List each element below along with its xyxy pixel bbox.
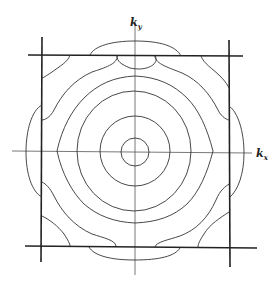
corner-arc-br bbox=[198, 212, 229, 247]
corner-arc-tl bbox=[42, 55, 70, 78]
bulge-bottom bbox=[89, 247, 180, 260]
corner-arc-bl bbox=[42, 216, 70, 246]
kx-axis bbox=[12, 151, 252, 153]
contour-5 bbox=[117, 55, 156, 69]
ky-label: ky bbox=[130, 16, 143, 31]
bulge-right bbox=[229, 106, 244, 197]
bulge-top bbox=[90, 41, 181, 56]
corner-arc-tr bbox=[201, 56, 229, 88]
k-space-diagram: ky kx bbox=[0, 0, 279, 282]
kx-label: kx bbox=[256, 147, 269, 162]
contour-3 bbox=[77, 91, 191, 211]
